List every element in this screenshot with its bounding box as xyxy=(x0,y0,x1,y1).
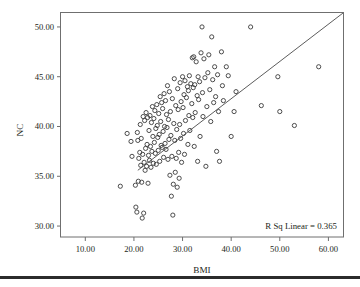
plot-canvas: 30.0035.0040.0045.0050.00 10.0020.0030.0… xyxy=(0,0,360,287)
plot-frame xyxy=(61,13,344,238)
y-tick-label: 30.00 xyxy=(35,221,54,231)
footer-rule xyxy=(0,276,360,279)
x-tick-label: 60.00 xyxy=(319,244,338,254)
x-axis-title: BMI xyxy=(193,265,210,275)
x-tick-label: 20.00 xyxy=(124,244,143,254)
y-tick-label: 35.00 xyxy=(35,171,54,181)
y-axis-title: NC xyxy=(15,124,25,137)
x-tick-label: 50.00 xyxy=(270,244,289,254)
x-tick-label: 30.00 xyxy=(173,244,192,254)
y-tick-label: 45.00 xyxy=(35,72,54,82)
y-tick-label: 50.00 xyxy=(35,22,54,32)
x-tick-label: 40.00 xyxy=(222,244,241,254)
r-squared-annotation: R Sq Linear = 0.365 xyxy=(265,221,337,231)
y-tick-label: 40.00 xyxy=(35,121,54,131)
x-tick-label: 10.00 xyxy=(76,244,95,254)
scatter-plot-figure: 30.0035.0040.0045.0050.00 10.0020.0030.0… xyxy=(0,0,360,287)
